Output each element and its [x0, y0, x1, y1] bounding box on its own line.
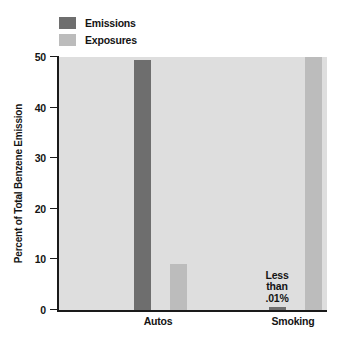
- y-axis-tick-label: 30: [35, 152, 46, 164]
- legend-swatch-exposures: [59, 34, 76, 46]
- legend-label-exposures: Exposures: [85, 34, 137, 46]
- y-axis-tick: 40: [50, 107, 59, 108]
- annotation-line: Less: [265, 270, 288, 282]
- benzene-emission-bar-chart: Emissions Exposures Percent of Total Ben…: [0, 0, 355, 345]
- annotation-line: .01%: [265, 293, 288, 305]
- y-axis-tick: 20: [50, 208, 59, 209]
- y-axis-tick: 10: [50, 258, 59, 259]
- legend-label-emissions: Emissions: [85, 17, 136, 29]
- bar-smoking-exposures: [305, 57, 322, 310]
- y-axis-tick: 30: [50, 157, 59, 158]
- bar-autos-emissions: [134, 60, 151, 310]
- x-axis-label-autos: Autos: [144, 315, 173, 327]
- plot-area: 01020304050 Lessthan.01%: [57, 57, 327, 312]
- x-axis-label-smoking: Smoking: [272, 315, 315, 327]
- y-axis-tick-label: 50: [35, 51, 46, 63]
- bar-autos-exposures: [170, 264, 187, 310]
- y-axis-tick-label: 40: [35, 102, 46, 114]
- y-axis-tick-label: 20: [35, 203, 46, 215]
- chart-legend: Emissions Exposures: [59, 15, 137, 49]
- y-axis-tick: 50: [50, 56, 59, 57]
- y-axis-tick-label: 10: [35, 253, 46, 265]
- y-axis-title: Percent of Total Benzene Emission: [12, 57, 26, 310]
- y-axis-tick: 0: [50, 309, 59, 310]
- y-axis-tick-label: 0: [40, 304, 46, 316]
- legend-item-emissions: Emissions: [59, 15, 137, 30]
- legend-item-exposures: Exposures: [59, 32, 137, 47]
- legend-swatch-emissions: [59, 17, 76, 29]
- bar-value-annotation: Lessthan.01%: [265, 270, 288, 305]
- bar-smoking-emissions: [269, 307, 286, 310]
